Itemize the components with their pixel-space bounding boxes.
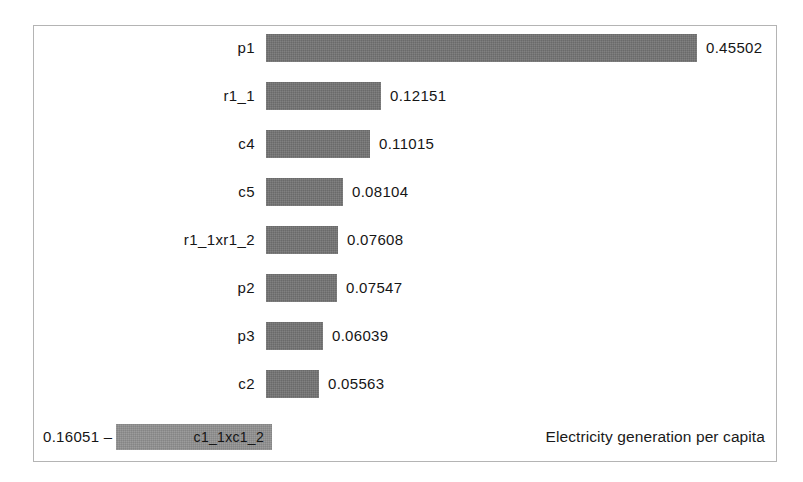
footer-row: 0.16051 – c1_1xc1_2 Electricity generati… [34,413,778,461]
residual-value-label: 0.16051 – [43,424,112,450]
bar [266,226,338,254]
bar-row: r1_1 0.12151 [34,82,778,110]
chart-frame: p1 0.45502 r1_1 0.12151 c4 0.11015 c5 0.… [33,25,777,462]
category-label: p1 [238,34,267,62]
residual-bar: c1_1xc1_2 [116,424,272,450]
bar-row: p1 0.45502 [34,34,778,62]
bar-row: c2 0.05563 [34,370,778,398]
value-label: 0.12151 [381,82,446,110]
bar-row: c5 0.08104 [34,178,778,206]
bar [266,130,370,158]
plot-area: p1 0.45502 r1_1 0.12151 c4 0.11015 c5 0.… [34,26,778,415]
category-label: r1_1 [223,82,266,110]
value-label: 0.07608 [338,226,403,254]
category-label: p3 [238,322,267,350]
bar-row: p2 0.07547 [34,274,778,302]
value-label: 0.06039 [323,322,388,350]
bar [266,274,337,302]
category-label: c4 [238,130,266,158]
value-label: 0.05563 [319,370,384,398]
category-label: p2 [238,274,267,302]
category-label: c2 [238,370,266,398]
category-label: c5 [238,178,266,206]
bar-row: c4 0.11015 [34,130,778,158]
value-label: 0.07547 [337,274,402,302]
value-label: 0.45502 [697,34,762,62]
bar [266,178,343,206]
bar-row: r1_1xr1_2 0.07608 [34,226,778,254]
bar [266,370,319,398]
category-label: r1_1xr1_2 [184,226,266,254]
bar-row: p3 0.06039 [34,322,778,350]
value-label: 0.08104 [343,178,408,206]
bar [266,322,323,350]
residual-bar-label: c1_1xc1_2 [194,424,264,450]
chart-title: Electricity generation per capita [545,423,765,451]
value-label: 0.11015 [370,130,434,158]
bar [266,34,697,62]
bar [266,82,381,110]
